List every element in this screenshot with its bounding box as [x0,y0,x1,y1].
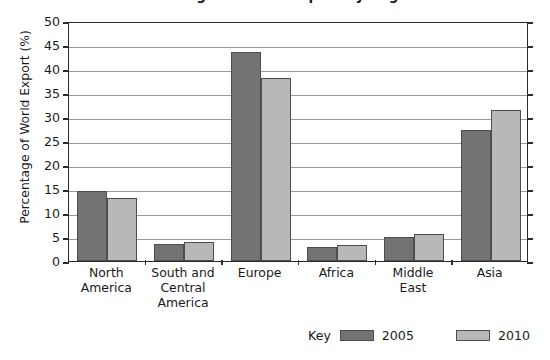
x-axis-label-line: America [68,280,145,295]
legend-label-2010: 2010 [498,328,530,343]
y-axis-tick-label: 25 [26,136,60,149]
x-axis-category-label: South andCentralAmerica [145,265,222,310]
bar-2010 [491,110,521,261]
bar-2005 [154,244,184,261]
x-axis-tick-mark [375,260,376,265]
legend-key-label: Key [308,328,331,343]
bar-2010 [261,78,291,261]
bar-2005 [231,52,261,261]
x-axis-category-label: MiddleEast [375,265,452,295]
x-axis-tick-mark [221,260,222,265]
x-axis-label-line: Asia [451,265,528,280]
y-axis-tick-label: 50 [26,16,60,29]
x-axis-category-label: Europe [221,265,298,280]
plot-area [68,22,528,262]
y-axis-tick-mark [527,262,533,263]
bar-group [69,23,146,261]
x-axis-tick-mark [145,260,146,265]
y-axis-tick-mark [63,262,69,263]
y-axis-tick-label: 10 [26,208,60,221]
x-axis-label-line: South and [145,265,222,280]
x-axis-tick-mark [298,260,299,265]
y-axis-tick-label: 5 [26,232,60,245]
legend-entry-2005: 2005 [340,328,414,343]
x-axis-label-line: Middle [375,265,452,280]
chart-title: Percentage of World Export by Region [0,0,550,7]
y-axis-tick-label: 35 [26,88,60,101]
legend-swatch-2010 [456,330,490,341]
bar-2005 [461,130,491,261]
legend-label-2005: 2005 [382,328,414,343]
x-axis-category-label: Asia [451,265,528,280]
chart-legend: Key 20052010 [308,327,530,343]
y-axis-tick-label: 30 [26,112,60,125]
y-axis-tick-label: 20 [26,160,60,173]
bar-group [222,23,299,261]
x-axis-label-line: North [68,265,145,280]
x-axis-label-line: East [375,280,452,295]
bar-chart-figure: Percentage of World Export by Region Per… [0,0,550,360]
x-axis-label-line: America [145,295,222,310]
x-axis-category-label: NorthAmerica [68,265,145,295]
y-axis-tick-label: 45 [26,40,60,53]
x-axis-label-line: Africa [298,265,375,280]
x-axis-category-label: Africa [298,265,375,280]
y-axis-tick-label: 0 [26,256,60,269]
bar-group [146,23,223,261]
bar-2005 [384,237,414,261]
y-axis-tick-label: 40 [26,64,60,77]
bar-2010 [414,234,444,261]
bar-group [299,23,376,261]
y-axis-tick-label: 15 [26,184,60,197]
bar-2010 [107,198,137,261]
bar-2005 [77,191,107,261]
bar-group [376,23,453,261]
bar-2010 [337,245,367,261]
x-axis-category-labels: NorthAmericaSouth andCentralAmericaEurop… [68,265,528,325]
bar-2010 [184,242,214,261]
bar-group [452,23,529,261]
legend-entry-2010: 2010 [456,328,530,343]
x-axis-label-line: Europe [221,265,298,280]
x-axis-label-line: Central [145,280,222,295]
bars-layer [69,23,527,261]
bar-2005 [307,247,337,261]
y-axis-tick-labels: 05101520253035404550 [22,22,60,262]
legend-entries: 20052010 [340,328,530,343]
x-axis-tick-mark [451,260,452,265]
legend-swatch-2005 [340,330,374,341]
